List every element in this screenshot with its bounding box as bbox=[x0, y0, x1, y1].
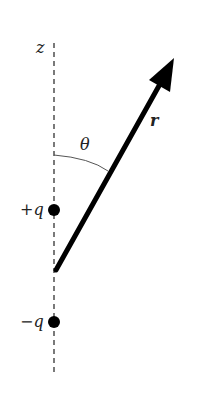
r-vector-arrowhead-icon bbox=[149, 58, 174, 92]
dipole-diagram: z r θ +q −q bbox=[0, 0, 202, 401]
negative-charge-label: −q bbox=[20, 314, 44, 330]
negative-charge bbox=[48, 316, 60, 328]
positive-charge-label: +q bbox=[20, 202, 44, 218]
theta-label: θ bbox=[80, 137, 90, 153]
r-vector-shaft bbox=[56, 84, 160, 270]
theta-arc bbox=[54, 155, 108, 171]
r-vector-label: r bbox=[150, 113, 158, 129]
z-axis-label: z bbox=[36, 40, 44, 56]
positive-charge bbox=[48, 204, 60, 216]
